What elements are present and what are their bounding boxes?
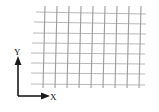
y-axis-label: Y: [14, 47, 21, 57]
coordinate-grid-figure: Y X: [0, 0, 159, 112]
x-axis-label: X: [50, 92, 57, 102]
figure-canvas: Y X: [0, 0, 159, 112]
